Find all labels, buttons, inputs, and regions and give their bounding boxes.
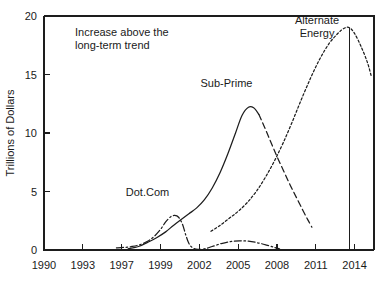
x-tick-label-2014: 2014	[342, 259, 366, 271]
line-chart-figure: 0510152019901993199719992002200520082011…	[0, 0, 385, 287]
x-tick-label-2008: 2008	[265, 259, 289, 271]
annotation-line: Increase above the	[75, 26, 169, 38]
x-tick-label-1999: 1999	[148, 259, 172, 271]
series-labels-group: Dot.ComSub-PrimeAlternateEnergy	[126, 14, 339, 198]
chart-container: 0510152019901993199719992002200520082011…	[0, 0, 385, 287]
series-label-alternate-energy: AlternateEnergy	[295, 14, 339, 39]
series-path-sub-prime-decline	[259, 114, 312, 227]
y-tick-label-15: 15	[25, 69, 37, 81]
series-label-line: Sub-Prime	[200, 77, 252, 89]
increase-note: Increase above thelong-term trend	[75, 26, 169, 51]
series-label-dot-com: Dot.Com	[126, 186, 169, 198]
y-axis-title-text: Trillions of Dollars	[4, 89, 16, 177]
series-label-line: Energy	[300, 27, 335, 39]
x-tick-label-1997: 1997	[109, 259, 133, 271]
annotations-group: Increase above thelong-term trend	[75, 26, 169, 51]
x-tick-label-2005: 2005	[226, 259, 250, 271]
series-label-line: Alternate	[295, 14, 339, 26]
y-tick-label-20: 20	[25, 10, 37, 22]
y-tick-label-10: 10	[25, 127, 37, 139]
x-tick-label-1993: 1993	[71, 259, 95, 271]
x-tick-label-2011: 2011	[304, 259, 328, 271]
y-axis-title: Trillions of Dollars	[4, 89, 16, 177]
data-series-group	[116, 27, 371, 249]
annotation-line: long-term trend	[75, 39, 150, 51]
series-path-dot-com	[116, 215, 279, 249]
axis-ticks	[44, 16, 355, 250]
y-tick-label-0: 0	[31, 244, 37, 256]
y-tick-label-5: 5	[31, 186, 37, 198]
x-tick-label-2002: 2002	[187, 259, 211, 271]
series-label-line: Dot.Com	[126, 186, 169, 198]
series-path-alternate-energy	[211, 27, 371, 231]
series-label-sub-prime: Sub-Prime	[200, 77, 252, 89]
x-tick-label-1990: 1990	[32, 259, 56, 271]
series-path-sub-prime	[128, 107, 259, 249]
